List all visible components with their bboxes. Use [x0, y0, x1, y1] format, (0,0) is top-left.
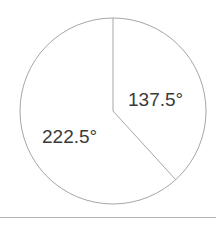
sector-angle-label-left: 222.5° — [42, 127, 97, 146]
sector-angle-label-right: 137.5° — [128, 90, 183, 109]
pie-angle-figure: 137.5° 222.5° — [0, 0, 216, 231]
pie-diagram-svg — [0, 0, 216, 231]
